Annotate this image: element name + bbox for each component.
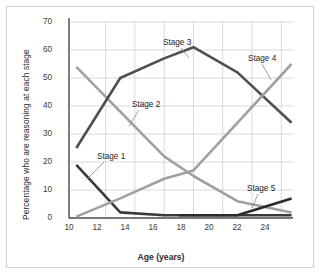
leader-line (86, 162, 104, 180)
leader-line (129, 110, 139, 126)
annotation-leader-lines (86, 48, 271, 208)
stage-4-label: Stage 4 (248, 54, 276, 63)
stage-5-label: Stage 5 (247, 184, 275, 193)
series-line-stage-4 (76, 64, 291, 217)
stage-1-label: Stage 1 (97, 152, 125, 161)
stage-3-label: Stage 3 (163, 38, 191, 47)
plot-area (0, 0, 322, 278)
chart-root: Percentage who are reasoning at each sta… (0, 0, 322, 278)
stage-2-label: Stage 2 (132, 100, 160, 109)
